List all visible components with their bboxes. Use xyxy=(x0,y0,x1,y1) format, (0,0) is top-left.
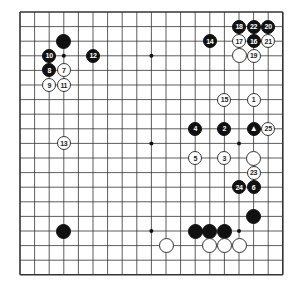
move-number: 18 xyxy=(235,23,242,30)
white-stone[interactable] xyxy=(159,238,174,253)
black-stone[interactable] xyxy=(56,34,71,49)
move-number: 16 xyxy=(250,38,257,45)
black-stone[interactable] xyxy=(217,224,232,239)
black-stone[interactable]: 18 xyxy=(232,20,246,34)
black-stone[interactable]: ▲ xyxy=(247,122,261,136)
black-stone[interactable]: 4 xyxy=(188,122,202,136)
white-stone[interactable]: 23 xyxy=(247,166,261,180)
move-number: 4 xyxy=(193,125,197,132)
white-stone[interactable] xyxy=(246,151,261,166)
move-number: 3 xyxy=(223,155,227,162)
white-stone[interactable]: 11 xyxy=(57,78,71,92)
white-stone[interactable]: 25 xyxy=(261,122,275,136)
black-stone[interactable]: 10 xyxy=(42,49,56,63)
black-stone[interactable]: 14 xyxy=(203,34,217,48)
move-number: 1 xyxy=(252,96,256,103)
move-number: 20 xyxy=(265,23,272,30)
black-stone[interactable] xyxy=(202,224,217,239)
hoshi-point xyxy=(149,141,153,145)
move-number: 10 xyxy=(46,52,53,59)
move-number: 8 xyxy=(47,67,51,74)
move-number: 13 xyxy=(60,140,67,147)
move-number: 9 xyxy=(47,82,51,89)
move-number: 6 xyxy=(252,184,256,191)
move-number: 12 xyxy=(89,52,96,59)
hoshi-point xyxy=(237,141,241,145)
white-stone[interactable] xyxy=(217,238,232,253)
move-number: 7 xyxy=(62,67,66,74)
white-stone[interactable]: 1 xyxy=(247,93,261,107)
white-stone[interactable] xyxy=(232,48,247,63)
move-number: 25 xyxy=(265,125,272,132)
hoshi-point xyxy=(149,229,153,233)
move-number: 23 xyxy=(250,169,257,176)
move-number: 15 xyxy=(221,96,228,103)
white-stone[interactable]: 15 xyxy=(217,93,231,107)
triangle-marker-icon: ▲ xyxy=(250,124,258,133)
black-stone[interactable]: 12 xyxy=(86,49,100,63)
white-stone[interactable]: 19 xyxy=(247,49,261,63)
black-stone[interactable] xyxy=(56,224,71,239)
black-stone[interactable] xyxy=(188,224,203,239)
black-stone[interactable]: 16 xyxy=(247,34,261,48)
move-number: 22 xyxy=(250,23,257,30)
black-stone[interactable]: 6 xyxy=(247,180,261,194)
hoshi-point xyxy=(62,54,66,58)
move-number: 14 xyxy=(206,38,213,45)
move-number: 19 xyxy=(250,52,257,59)
black-stone[interactable]: 22 xyxy=(247,20,261,34)
move-number: 24 xyxy=(235,184,242,191)
move-number: 11 xyxy=(60,82,67,89)
move-number: 5 xyxy=(193,155,197,162)
white-stone[interactable] xyxy=(232,238,247,253)
move-number: 2 xyxy=(223,125,227,132)
move-number: 21 xyxy=(265,38,272,45)
black-stone[interactable]: 20 xyxy=(261,20,275,34)
go-board: 10128791113141822201716211915142▲2553232… xyxy=(0,0,301,303)
black-stone[interactable] xyxy=(246,209,261,224)
hoshi-point xyxy=(237,229,241,233)
move-number: 17 xyxy=(235,38,242,45)
hoshi-point xyxy=(149,54,153,58)
